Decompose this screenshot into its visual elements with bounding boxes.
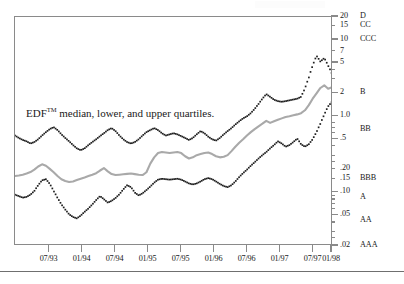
- y-tick-label: 20: [340, 12, 348, 20]
- y-tick-minor: [331, 237, 335, 238]
- x-tick-label: 07/94: [106, 255, 124, 263]
- y-tick-minor: [331, 208, 335, 209]
- rating-label-bbb: BBB: [360, 174, 376, 182]
- series-lower-quartile: [15, 101, 331, 219]
- y-tick-minor: [331, 127, 335, 128]
- y-tick-minor: [331, 198, 335, 199]
- edf-quartiles-chart: EDFTM median, lower, and upper quartiles…: [0, 0, 404, 284]
- x-tick: [81, 245, 82, 252]
- rating-label-aa: AA: [360, 216, 372, 224]
- y-tick: [331, 178, 335, 179]
- y-tick-minor: [331, 69, 335, 70]
- annotation-prefix: EDF: [26, 107, 47, 119]
- x-tick: [246, 245, 247, 252]
- y-tick-label: 15: [340, 21, 348, 29]
- y-tick-label: .02: [340, 241, 350, 249]
- y-tick: [331, 25, 335, 26]
- series-svg: [15, 17, 331, 244]
- y-tick-minor: [331, 231, 335, 232]
- y-tick-label: .15: [340, 174, 350, 182]
- y-tick: [331, 138, 338, 139]
- chart-annotation: EDFTM median, lower, and upper quartiles…: [26, 104, 214, 119]
- x-tick: [114, 245, 115, 252]
- y-tick-label: .10: [340, 187, 350, 195]
- y-tick-minor: [331, 78, 335, 79]
- rating-label-aaa: AAA: [360, 241, 377, 249]
- y-tick-label: 1.0: [340, 111, 350, 119]
- plot-area: [15, 17, 331, 244]
- rating-label-ccc: CCC: [360, 35, 376, 43]
- rating-label-bb: BB: [360, 125, 371, 133]
- rating-label-cc: CC: [360, 21, 371, 29]
- y-tick-minor: [331, 122, 335, 123]
- x-tick: [213, 245, 214, 252]
- y-tick-minor: [331, 161, 335, 162]
- x-tick-label: 01/94: [73, 255, 91, 263]
- y-tick: [331, 61, 338, 62]
- x-tick: [279, 245, 280, 252]
- rating-label-a: A: [360, 193, 366, 201]
- x-tick-label: 01/95: [139, 255, 157, 263]
- y-tick: [331, 15, 338, 16]
- y-tick-minor: [331, 155, 335, 156]
- x-tick-label: 01/96: [205, 255, 223, 263]
- y-tick: [331, 92, 338, 93]
- rating-label-b: B: [360, 88, 365, 96]
- y-tick-label: 7: [340, 47, 344, 55]
- y-tick: [331, 50, 335, 51]
- y-tick-minor: [331, 195, 335, 196]
- y-tick-minor: [331, 221, 335, 222]
- y-tick-label: 5: [340, 58, 344, 66]
- x-tick: [312, 245, 313, 252]
- x-tick-label: 07/97: [304, 255, 322, 263]
- y-tick-label: .20: [340, 164, 350, 172]
- annotation-rest: median, lower, and upper quartiles.: [56, 107, 214, 119]
- bottom-rule: [0, 271, 404, 272]
- y-tick-minor: [331, 203, 335, 204]
- x-tick: [180, 245, 181, 252]
- y-tick-label: 2: [340, 88, 344, 96]
- rating-label-d: D: [360, 12, 366, 20]
- x-tick: [147, 245, 148, 252]
- y-tick: [331, 115, 338, 116]
- x-tick-label: 07/93: [40, 255, 58, 263]
- y-tick: [331, 244, 338, 245]
- plot-frame: [14, 16, 331, 245]
- y-tick: [331, 214, 338, 215]
- y-tick-minor: [331, 132, 335, 133]
- y-tick-minor: [331, 145, 335, 146]
- cropped-text-artifact: [255, 1, 325, 8]
- x-tick: [48, 245, 49, 252]
- y-tick: [331, 191, 338, 192]
- x-tick: [330, 245, 331, 252]
- y-tick: [331, 38, 338, 39]
- y-tick: [331, 168, 335, 169]
- y-tick-label: .5: [340, 134, 346, 142]
- x-tick-label: 01/97: [271, 255, 289, 263]
- x-tick-label: 07/96: [238, 255, 256, 263]
- x-tick-label: 07/95: [172, 255, 190, 263]
- y-tick-label: 10: [340, 35, 348, 43]
- y-tick-label: .05: [340, 210, 350, 218]
- x-tick-label: 01/98: [322, 255, 340, 263]
